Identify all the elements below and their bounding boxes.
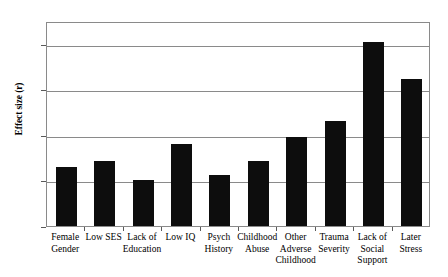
bar [171, 144, 192, 226]
bar [401, 79, 422, 226]
x-axis-tick-mark [161, 227, 162, 231]
x-axis-tick-mark [238, 227, 239, 231]
x-axis-tick-mark [392, 227, 393, 231]
x-axis-tick-mark [84, 227, 85, 231]
y-axis-tick-mark [41, 136, 46, 137]
x-axis-tick-mark [123, 227, 124, 231]
bar [286, 137, 307, 226]
y-axis-tick-mark [41, 90, 46, 91]
x-axis-tick-mark [200, 227, 201, 231]
effect-size-bar-chart: Effect size (r) 00.10.20.30.4Female Gend… [0, 0, 448, 277]
x-axis-tick-mark [315, 227, 316, 231]
y-axis-tick-mark [41, 227, 46, 228]
y-axis-title: Effect size (r) [14, 59, 24, 159]
bar [133, 180, 154, 226]
bar [325, 121, 346, 226]
bar [209, 175, 230, 226]
x-axis-tick-mark [276, 227, 277, 231]
x-axis-tick-mark [353, 227, 354, 231]
bar [248, 161, 269, 226]
bar [56, 167, 77, 226]
bar [363, 42, 384, 227]
y-axis-tick-mark [41, 45, 46, 46]
bar [94, 161, 115, 226]
y-axis-tick-mark [41, 181, 46, 182]
x-axis-category-label: Later Stress [380, 232, 442, 255]
plot-area [46, 22, 430, 227]
